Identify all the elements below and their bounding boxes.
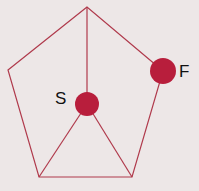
node-s-label: S (55, 90, 66, 107)
node-f-label: F (179, 63, 189, 80)
node-s (75, 92, 99, 116)
edge-s-to-bottom-left (39, 104, 87, 177)
pentagon-outline (8, 7, 163, 177)
node-f (150, 58, 176, 84)
edge-s-to-bottom-right (87, 104, 132, 177)
pentagon-diagram (0, 0, 199, 191)
